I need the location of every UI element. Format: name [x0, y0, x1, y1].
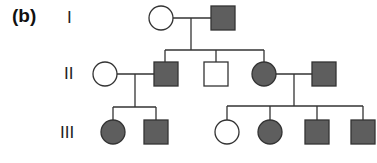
individual-i-1-female: [149, 6, 173, 30]
individual-iii-5-male-affected: [305, 120, 329, 144]
individual-ii-3-male: [204, 62, 228, 86]
individual-iii-1-female-affected: [101, 120, 125, 144]
individual-iii-3-female: [215, 120, 239, 144]
individual-iii-6-male-affected: [351, 120, 375, 144]
individual-ii-2-male-affected: [154, 62, 178, 86]
individual-i-2-male-affected: [211, 6, 235, 30]
individual-iii-2-male-affected: [144, 120, 168, 144]
individual-ii-1-female: [93, 62, 117, 86]
individual-ii-4-female-affected: [252, 62, 276, 86]
individual-iii-4-female-affected: [258, 120, 282, 144]
pedigree-chart: [0, 0, 377, 163]
individual-ii-5-male-affected: [312, 62, 336, 86]
